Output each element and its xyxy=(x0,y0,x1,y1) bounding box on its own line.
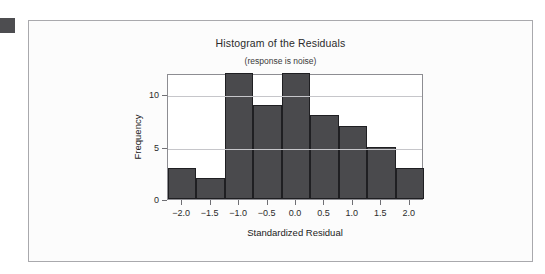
plot-area xyxy=(167,74,423,200)
x-axis-tick xyxy=(323,200,324,205)
y-axis-tick-label: 0 xyxy=(129,195,159,205)
histogram-bar xyxy=(339,126,367,200)
x-axis-title: Standardized Residual xyxy=(167,227,423,238)
y-axis-tick-label: 10 xyxy=(129,90,159,100)
x-axis-tick-label: 0.5 xyxy=(317,208,330,218)
chart-title: Histogram of the Residuals xyxy=(29,37,532,49)
histogram-bar xyxy=(168,168,196,200)
x-axis-tick xyxy=(352,200,353,205)
histogram-bar xyxy=(367,147,395,200)
x-axis-tick-label: 2.0 xyxy=(403,208,416,218)
histogram-bar xyxy=(196,178,224,199)
x-axis-tick-label: −1.0 xyxy=(229,208,247,218)
x-axis-tick-label: −1.5 xyxy=(201,208,219,218)
gridline xyxy=(168,96,422,97)
x-axis-tick xyxy=(238,200,239,205)
histogram-bar xyxy=(282,73,310,199)
histogram-bar xyxy=(225,73,253,199)
x-axis-tick xyxy=(295,200,296,205)
x-axis-tick xyxy=(267,200,268,205)
histogram-bar xyxy=(310,115,338,199)
y-axis-tick xyxy=(162,148,167,149)
x-axis-tick xyxy=(210,200,211,205)
corner-square-marker xyxy=(0,18,15,33)
x-axis-tick-label: 0.0 xyxy=(289,208,302,218)
x-axis-tick-label: 1.0 xyxy=(346,208,359,218)
histogram-bar xyxy=(253,105,281,200)
chart-subtitle: (response is noise) xyxy=(29,56,532,66)
x-axis-tick-label: −2.0 xyxy=(172,208,190,218)
x-axis-tick xyxy=(380,200,381,205)
x-axis-tick xyxy=(409,200,410,205)
y-axis-title: Frequency xyxy=(132,115,143,160)
histogram-bar xyxy=(396,168,424,200)
x-axis-tick-label: 1.5 xyxy=(374,208,387,218)
x-axis-tick-label: −0.5 xyxy=(258,208,276,218)
y-axis-tick xyxy=(162,200,167,201)
histogram-bars xyxy=(168,75,422,199)
gridline xyxy=(168,149,422,150)
y-axis-tick xyxy=(162,95,167,96)
x-axis-tick xyxy=(181,200,182,205)
figure-card: Histogram of the Residuals (response is … xyxy=(28,20,533,262)
